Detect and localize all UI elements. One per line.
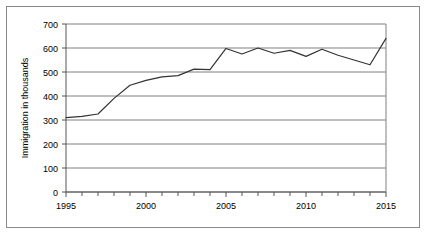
x-tick-labels-group: 19952000200520102015 — [56, 201, 396, 211]
y-tick-label: 600 — [43, 44, 58, 54]
y-tick-label: 200 — [43, 140, 58, 150]
x-minor-tick-marks-group — [66, 192, 386, 197]
x-tick-label: 2005 — [216, 201, 236, 211]
x-tick-label: 1995 — [56, 201, 76, 211]
y-tick-label: 400 — [43, 92, 58, 102]
x-tick-label: 2010 — [296, 201, 316, 211]
y-tick-marks-group — [62, 24, 66, 192]
y-tick-label: 100 — [43, 164, 58, 174]
y-tick-label: 0 — [53, 188, 58, 198]
line-chart: 7006005004003002001000 19952000200520102… — [0, 0, 427, 235]
x-tick-label: 2000 — [136, 201, 156, 211]
y-tick-labels-group: 7006005004003002001000 — [43, 20, 58, 198]
y-tick-label: 500 — [43, 68, 58, 78]
y-axis-title: Immigration in thousands — [20, 57, 30, 158]
x-tick-label: 2015 — [376, 201, 396, 211]
chart-figure: 7006005004003002001000 19952000200520102… — [0, 0, 427, 235]
data-series-line — [66, 38, 386, 117]
y-tick-label: 700 — [43, 20, 58, 30]
y-tick-label: 300 — [43, 116, 58, 126]
